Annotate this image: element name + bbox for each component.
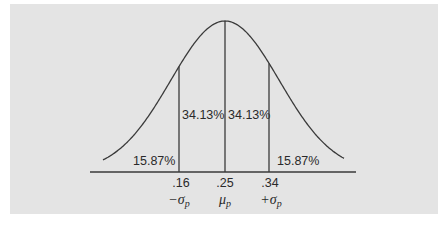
symbol-plus-sigma-p: +σp — [251, 193, 291, 209]
bell-curve — [103, 21, 344, 160]
right-center-percent: 34.13% — [228, 109, 270, 122]
symbol-mu-p: μp — [205, 193, 245, 209]
symbol-subscript: p — [185, 198, 190, 209]
left-center-percent: 34.13% — [182, 109, 224, 122]
symbol-text: −σ — [168, 192, 184, 207]
tick-label-mean: .25 — [205, 177, 245, 190]
symbol-text: +σ — [260, 192, 276, 207]
symbol-minus-sigma-p: −σp — [159, 193, 199, 209]
tick-label-plus-sigma: .34 — [250, 177, 290, 190]
left-tail-percent: 15.87% — [133, 155, 175, 168]
symbol-subscript: p — [226, 198, 231, 209]
tick-label-minus-sigma: .16 — [161, 177, 201, 190]
symbol-text: μ — [219, 192, 226, 207]
symbol-subscript: p — [277, 198, 282, 209]
right-tail-percent: 15.87% — [277, 155, 319, 168]
